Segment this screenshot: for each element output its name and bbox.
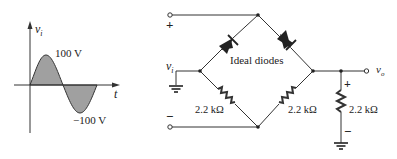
output-terminal	[364, 69, 368, 73]
wire-d1-lower	[200, 48, 223, 71]
diode-label: Ideal diodes	[230, 54, 283, 66]
wire-d2-lower	[291, 48, 313, 71]
resistor-right-zigzag	[279, 87, 296, 103]
sine-wave-negative	[63, 85, 97, 113]
node-bottom	[256, 125, 260, 129]
resistor-right-label: 2.2 kΩ	[288, 104, 317, 115]
node-right	[311, 69, 315, 73]
node-top	[256, 13, 260, 17]
waveform-plot: vi t 100 V −100 V	[14, 21, 120, 133]
output-voltage-label: vo	[376, 63, 385, 78]
node-output	[339, 69, 343, 73]
bridge-circuit	[168, 13, 369, 143]
resistor-left-zigzag	[218, 87, 235, 103]
wire-r2-lower	[258, 104, 279, 127]
trough-label: −100 V	[73, 114, 106, 126]
diode-d1-icon	[219, 35, 238, 54]
ground-icon-output	[334, 143, 348, 149]
x-axis-label: t	[114, 87, 118, 101]
peak-label: 100 V	[55, 47, 82, 59]
resistor-load-label: 2.2 kΩ	[349, 104, 378, 115]
wire-r1-upper	[200, 71, 218, 89]
input-terminal-bottom	[168, 125, 172, 129]
output-minus-sign: −	[344, 124, 351, 139]
diode-d2-icon	[277, 30, 296, 50]
output-plus-sign: +	[344, 77, 351, 91]
y-axis-arrow-icon	[28, 21, 33, 29]
wire-r2-upper	[296, 71, 313, 88]
sine-wave-positive	[30, 55, 63, 85]
ground-icon-input	[169, 86, 183, 92]
y-axis-label: vi	[35, 22, 43, 38]
resistor-load-zigzag	[337, 90, 345, 112]
input-plus-sign: +	[166, 17, 173, 32]
node-left	[198, 69, 202, 73]
figure: vi t 100 V −100 V	[0, 0, 397, 159]
wire-d2-upper	[258, 15, 281, 38]
wire-r1-lower	[235, 104, 258, 127]
input-voltage-label: vi	[166, 59, 174, 75]
input-minus-sign: −	[166, 109, 173, 124]
resistor-left-label: 2.2 kΩ	[195, 104, 224, 115]
wire-d1-upper	[233, 15, 258, 38]
